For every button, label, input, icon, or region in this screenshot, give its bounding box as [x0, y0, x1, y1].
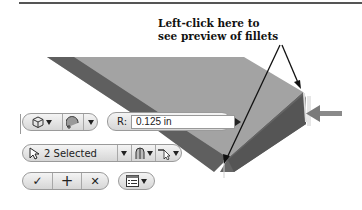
selection-field[interactable]: 2 Selected [23, 145, 117, 161]
fillet-mode-icon [66, 115, 80, 129]
chevron-down-icon [141, 179, 147, 184]
check-icon: ✓ [32, 174, 42, 188]
edge-chain-dropdown[interactable] [131, 145, 156, 161]
selection-mode-group [22, 113, 98, 131]
edge-chain-icon [134, 147, 145, 160]
apply-button[interactable]: + [52, 173, 81, 189]
chevron-down-icon [147, 151, 153, 156]
plus-icon: + [61, 172, 74, 190]
play-arrow-icon [235, 118, 241, 126]
solid-body-icon [32, 116, 44, 128]
solid-select-dropdown[interactable] [23, 114, 62, 130]
callout-text: Left-click here to see preview of fillet… [158, 17, 278, 43]
dialog-actions-group: ✓ + ✕ [22, 172, 109, 190]
options-button[interactable] [119, 173, 154, 189]
radius-input[interactable] [131, 115, 235, 129]
list-options-icon [126, 175, 139, 187]
close-icon: ✕ [90, 175, 99, 188]
cancel-button[interactable]: ✕ [81, 173, 108, 189]
select-filter-icon [158, 147, 171, 160]
ok-button[interactable]: ✓ [23, 173, 52, 189]
fillet-mode-dropdown[interactable] [83, 114, 97, 130]
direction-arrow-glyph[interactable] [306, 105, 342, 122]
callout-line-2: see preview of fillets [158, 30, 278, 43]
toolbar-divider [20, 114, 21, 134]
selection-group: 2 Selected [22, 144, 182, 162]
chevron-down-icon [46, 120, 52, 125]
chevron-down-icon [173, 151, 179, 156]
radius-group: R: [107, 112, 231, 131]
cursor-icon [29, 147, 39, 160]
radius-label: R: [117, 116, 127, 127]
chevron-down-icon [121, 151, 127, 156]
select-filter-dropdown[interactable] [155, 145, 181, 161]
callout-line-1: Left-click here to [158, 17, 278, 30]
options-dropdown[interactable] [118, 172, 155, 190]
selection-dropdown[interactable] [117, 145, 131, 161]
chevron-down-icon [88, 120, 94, 125]
apply-radius-button[interactable] [235, 113, 241, 130]
selection-count: 2 Selected [44, 148, 97, 159]
fillet-mode-button[interactable] [62, 114, 83, 130]
